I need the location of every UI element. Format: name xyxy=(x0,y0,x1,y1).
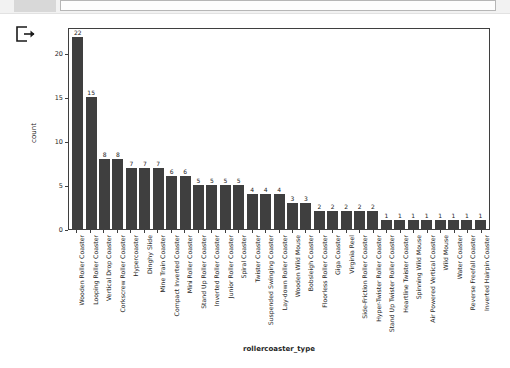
x-tick-mark-line xyxy=(198,230,199,233)
x-tick-mark-line xyxy=(292,230,293,233)
bar-value-label: 4 xyxy=(277,186,281,193)
bar-value-label: 1 xyxy=(411,212,415,219)
bar-item[interactable]: 8 xyxy=(98,29,111,229)
x-label-cell: Spinning Wild Mouse xyxy=(407,235,420,343)
bar-rect xyxy=(435,220,446,229)
bar-item[interactable]: 6 xyxy=(178,29,191,229)
bar-value-label: 2 xyxy=(317,203,321,210)
bar-item[interactable]: 2 xyxy=(366,29,379,229)
x-tick-mark-line xyxy=(346,230,347,233)
x-tick-mark xyxy=(286,230,299,234)
bar-item[interactable]: 7 xyxy=(125,29,138,229)
bar-rect xyxy=(99,159,110,229)
bar-value-label: 2 xyxy=(358,203,362,210)
bar-value-label: 4 xyxy=(250,186,254,193)
x-tick-mark-line xyxy=(400,230,401,233)
bar-item[interactable]: 2 xyxy=(339,29,352,229)
bar-value-label: 2 xyxy=(331,203,335,210)
bar-item[interactable]: 2 xyxy=(326,29,339,229)
bar-rect xyxy=(341,211,352,229)
x-label-cell: Inverted Roller Coaster xyxy=(205,235,218,343)
x-tick-mark xyxy=(313,230,326,234)
x-label-cell: Inverted Hairpin Coaster xyxy=(475,235,488,343)
x-tick-mark-line xyxy=(319,230,320,233)
bar-rect xyxy=(72,37,83,229)
x-tick-mark xyxy=(461,230,474,234)
x-label-cell: Twister Coaster xyxy=(245,235,258,343)
chrome-tab[interactable] xyxy=(14,0,56,12)
x-label-cell: Dinghy Slide xyxy=(137,235,150,343)
x-label-cell: Water Coaster xyxy=(448,235,461,343)
bar-item[interactable]: 1 xyxy=(420,29,433,229)
x-tick-mark xyxy=(191,230,204,234)
x-tick-label: Inverted Hairpin Coaster xyxy=(484,235,491,311)
x-tick-mark xyxy=(407,230,420,234)
bar-item[interactable]: 1 xyxy=(433,29,446,229)
bar-item[interactable]: 3 xyxy=(299,29,312,229)
bar-value-label: 5 xyxy=(210,177,214,184)
bar-item[interactable]: 4 xyxy=(272,29,285,229)
x-tick-mark xyxy=(232,230,245,234)
bar-item[interactable]: 1 xyxy=(460,29,473,229)
x-label-cell: Giga Coaster xyxy=(326,235,339,343)
bar-rect xyxy=(220,185,231,229)
x-label-cell: Reverse Freefall Coaster xyxy=(461,235,474,343)
bar-item[interactable]: 2 xyxy=(353,29,366,229)
bar-value-label: 7 xyxy=(143,160,147,167)
bar-rect xyxy=(260,194,271,229)
bar-item[interactable]: 1 xyxy=(447,29,460,229)
bar-value-label: 1 xyxy=(465,212,469,219)
bar-item[interactable]: 7 xyxy=(152,29,165,229)
x-label-cell: Suspended Swinging Coaster xyxy=(259,235,272,343)
bar-value-label: 3 xyxy=(304,195,308,202)
bar-item[interactable]: 5 xyxy=(205,29,218,229)
x-tick-mark-line xyxy=(171,230,172,233)
bar-item[interactable]: 5 xyxy=(219,29,232,229)
chrome-input-field[interactable] xyxy=(60,0,496,11)
bar-rect xyxy=(193,185,204,229)
x-label-cell: Spiral Coaster xyxy=(232,235,245,343)
bar-item[interactable]: 6 xyxy=(165,29,178,229)
bar-item[interactable]: 22 xyxy=(71,29,84,229)
bar-rect xyxy=(139,168,150,229)
bar-item[interactable]: 8 xyxy=(111,29,124,229)
bar-item[interactable]: 7 xyxy=(138,29,151,229)
bar-item[interactable]: 1 xyxy=(474,29,487,229)
bar-value-label: 2 xyxy=(344,203,348,210)
bar-item[interactable]: 1 xyxy=(393,29,406,229)
x-label-cell: Compact Inverted Coaster xyxy=(164,235,177,343)
x-label-cell: Air Powered Vertical Coaster xyxy=(421,235,434,343)
bar-item[interactable]: 15 xyxy=(84,29,97,229)
x-axis-title: rollercoaster_type xyxy=(68,345,490,353)
x-tick-mark xyxy=(218,230,231,234)
x-tick-mark xyxy=(299,230,312,234)
x-label-cell: Lay-down Roller Coaster xyxy=(272,235,285,343)
bar-item[interactable]: 4 xyxy=(259,29,272,229)
bar-item[interactable]: 1 xyxy=(380,29,393,229)
bar-item[interactable]: 5 xyxy=(232,29,245,229)
x-tick-mark-line xyxy=(332,230,333,233)
bar-value-label: 22 xyxy=(74,29,82,36)
bar-item[interactable]: 4 xyxy=(245,29,258,229)
bar-rect xyxy=(112,159,123,229)
bar-value-label: 6 xyxy=(183,168,187,175)
x-tick-mark-line xyxy=(90,230,91,233)
bar-chart: count 05101520 2215887776655554443322222… xyxy=(58,20,490,360)
bar-item[interactable]: 5 xyxy=(192,29,205,229)
x-label-cell: Looping Roller Coaster xyxy=(83,235,96,343)
x-axis-ticks xyxy=(68,230,490,234)
bar-value-label: 1 xyxy=(398,212,402,219)
x-tick-mark-line xyxy=(279,230,280,233)
x-tick-mark xyxy=(380,230,393,234)
bar-item[interactable]: 1 xyxy=(407,29,420,229)
bar-item[interactable]: 3 xyxy=(286,29,299,229)
bar-item[interactable]: 2 xyxy=(313,29,326,229)
bar-value-label: 7 xyxy=(129,160,133,167)
x-label-cell: Wooden Roller Coaster xyxy=(70,235,83,343)
x-tick-mark-line xyxy=(413,230,414,233)
x-tick-mark-line xyxy=(225,230,226,233)
x-axis-labels: Wooden Roller CoasterLooping Roller Coas… xyxy=(68,235,490,343)
export-icon[interactable] xyxy=(14,24,36,44)
bar-rect xyxy=(126,168,137,229)
x-tick-mark xyxy=(245,230,258,234)
